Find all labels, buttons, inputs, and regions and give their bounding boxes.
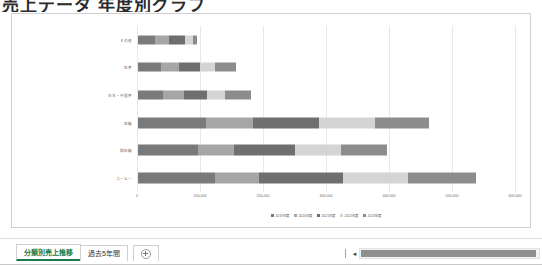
scroll-thumb[interactable]: [361, 250, 536, 257]
gridline: [515, 26, 516, 192]
legend-item[interactable]: 2019年度: [271, 213, 289, 218]
x-tick-label: 600,000: [509, 194, 522, 198]
bar-row[interactable]: 紅茶: [137, 54, 515, 82]
bar-row[interactable]: 飲料類: [137, 137, 515, 165]
bar-segment[interactable]: [138, 145, 198, 156]
chart-frame[interactable]: その他紅茶日本・中国茶豆類飲料類コーヒー 0100,000200,000300,…: [11, 13, 531, 228]
stacked-bar[interactable]: [138, 63, 236, 72]
plot-area: その他紅茶日本・中国茶豆類飲料類コーヒー 0100,000200,000300,…: [137, 26, 515, 209]
bar-segment[interactable]: [225, 91, 251, 100]
x-tick-label: 200,000: [257, 194, 270, 198]
x-tick-label: 300,000: [320, 194, 333, 198]
bar-segment[interactable]: [253, 117, 319, 128]
bar-segment[interactable]: [408, 173, 476, 184]
bar-segment[interactable]: [193, 35, 197, 44]
bar-segment[interactable]: [163, 91, 184, 100]
scroll-split-grip[interactable]: [342, 248, 350, 259]
category-label: 紅茶: [124, 65, 132, 70]
bar-segment[interactable]: [295, 145, 341, 156]
category-label: 飲料類: [120, 148, 132, 153]
bar-segment[interactable]: [206, 117, 253, 128]
bar-segment[interactable]: [161, 63, 179, 72]
stacked-bar-chart: その他紅茶日本・中国茶豆類飲料類コーヒー 0100,000200,000300,…: [12, 14, 530, 227]
legend-label: 2020年度: [298, 213, 312, 218]
sheet-tab-2[interactable]: 過去5年間: [80, 245, 128, 261]
x-tick-label: 100,000: [194, 194, 207, 198]
bar-segment[interactable]: [215, 173, 259, 184]
bar-segment[interactable]: [184, 91, 207, 100]
bar-segment[interactable]: [185, 35, 194, 44]
add-sheet-button[interactable]: [133, 245, 159, 261]
legend-swatch-icon: [271, 214, 274, 217]
bar-segment[interactable]: [234, 145, 295, 156]
bar-segment[interactable]: [138, 117, 206, 128]
horizontal-scrollbar[interactable]: ◄: [342, 247, 540, 260]
bar-segment[interactable]: [138, 91, 163, 100]
bar-segment[interactable]: [138, 63, 161, 72]
legend-swatch-icon: [294, 214, 297, 217]
workbook-bottom-bar: 分類別売上推移過去5年間 ◄: [0, 238, 542, 265]
bar-segment[interactable]: [343, 173, 407, 184]
bar-row[interactable]: 豆類: [137, 109, 515, 137]
legend-item[interactable]: 2021年度: [317, 213, 335, 218]
bar-row[interactable]: コーヒー: [137, 164, 515, 192]
bar-row[interactable]: その他: [137, 26, 515, 54]
bar-segment[interactable]: [179, 63, 200, 72]
legend-label: 2019年度: [275, 213, 289, 218]
legend-item[interactable]: 2020年度: [294, 213, 312, 218]
bar-segment[interactable]: [259, 173, 343, 184]
bar-segment[interactable]: [341, 145, 388, 156]
bar-segment[interactable]: [198, 145, 233, 156]
bar-segment[interactable]: [155, 35, 169, 44]
scroll-left-arrow-icon[interactable]: ◄: [350, 248, 359, 259]
excel-window: 売上データ 年度別グラフ その他紅茶日本・中国茶豆類飲料類コーヒー 0100,0…: [0, 0, 542, 265]
page-title: 売上データ 年度別グラフ: [2, 0, 206, 12]
chart-legend[interactable]: 2019年度2020年度2021年度2022年度2023年度: [137, 213, 515, 218]
category-label: 日本・中国茶: [108, 93, 132, 98]
bar-segment[interactable]: [375, 117, 429, 128]
category-label: コーヒー: [116, 176, 132, 181]
legend-swatch-icon: [340, 214, 343, 217]
x-tick-label: 500,000: [446, 194, 459, 198]
bottom-separator: [0, 238, 542, 239]
bar-segment[interactable]: [169, 35, 185, 44]
legend-swatch-icon: [363, 214, 366, 217]
stacked-bar[interactable]: [138, 35, 197, 44]
stacked-bar[interactable]: [138, 173, 476, 184]
bar-segment[interactable]: [319, 117, 374, 128]
bar-segment[interactable]: [207, 91, 225, 100]
legend-item[interactable]: 2022年度: [340, 213, 358, 218]
sheet-tab-strip[interactable]: 分類別売上推移過去5年間: [16, 244, 159, 261]
category-label: その他: [120, 37, 132, 42]
stacked-bar[interactable]: [138, 145, 387, 156]
stacked-bar[interactable]: [138, 91, 251, 100]
category-label: 豆類: [124, 120, 132, 125]
bar-segment[interactable]: [215, 63, 235, 72]
bar-segment[interactable]: [138, 35, 155, 44]
x-tick-label: 400,000: [383, 194, 396, 198]
stacked-bar[interactable]: [138, 117, 429, 128]
bar-segment[interactable]: [200, 63, 216, 72]
legend-label: 2023年度: [368, 213, 382, 218]
legend-label: 2022年度: [345, 213, 359, 218]
x-tick-label: 0: [136, 194, 138, 198]
sheet-tab-1[interactable]: 分類別売上推移: [16, 244, 81, 261]
legend-swatch-icon: [317, 214, 320, 217]
legend-label: 2021年度: [321, 213, 335, 218]
scroll-track[interactable]: [359, 248, 540, 259]
x-axis-ticks: 0100,000200,000300,000400,000500,000600,…: [137, 194, 515, 204]
plus-circle-icon: [141, 249, 151, 259]
legend-item[interactable]: 2023年度: [363, 213, 381, 218]
window-title-strip: 売上データ 年度別グラフ: [0, 0, 542, 12]
bar-segment[interactable]: [138, 173, 215, 184]
bar-row[interactable]: 日本・中国茶: [137, 81, 515, 109]
